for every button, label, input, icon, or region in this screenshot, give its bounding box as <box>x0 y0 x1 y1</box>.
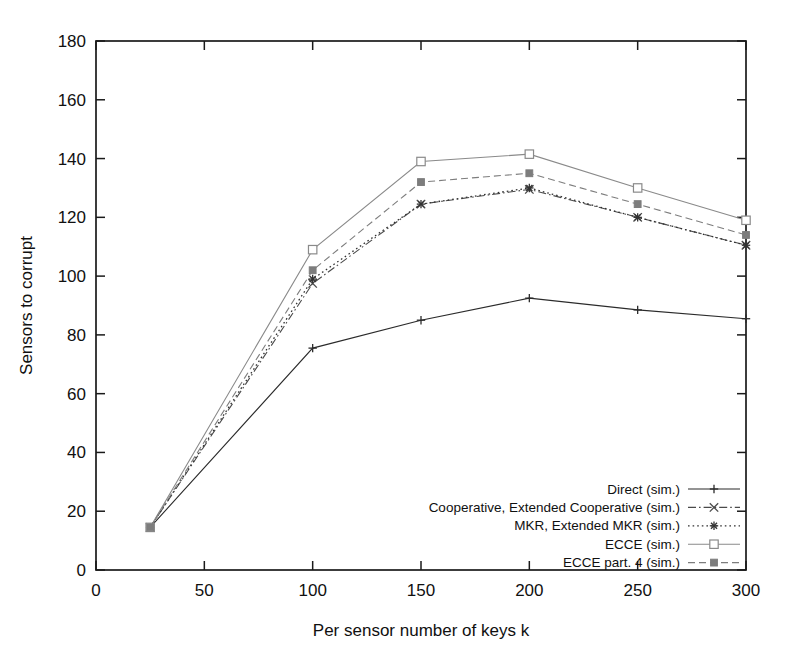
x-axis-title: Per sensor number of keys k <box>313 621 530 640</box>
y-tick-label: 40 <box>67 443 86 462</box>
series-line <box>150 173 746 527</box>
legend: Direct (sim.)Cooperative, Extended Coope… <box>429 482 740 571</box>
marker-open-square <box>742 216 750 224</box>
x-tick-label: 100 <box>298 581 326 600</box>
marker-open-square <box>633 184 641 192</box>
y-tick-label: 0 <box>77 561 86 580</box>
series-line <box>150 188 746 527</box>
marker-filled-square <box>309 267 316 274</box>
y-tick-label: 20 <box>67 502 86 521</box>
x-tick-label: 200 <box>515 581 543 600</box>
x-tick-label: 300 <box>732 581 760 600</box>
legend-label: Cooperative, Extended Cooperative (sim.) <box>429 500 680 515</box>
marker-filled-square <box>634 201 641 208</box>
marker-filled-square <box>526 170 533 177</box>
marker-filled-square <box>743 232 750 239</box>
series-3 <box>146 184 750 532</box>
marker-open-square <box>308 245 316 253</box>
marker-open-square <box>525 150 533 158</box>
series-5 <box>147 170 750 531</box>
chart-container: 0204060801001201401601800501001502002503… <box>0 0 796 647</box>
series-4 <box>146 150 750 532</box>
legend-label: ECCE part. 4 (sim.) <box>563 555 680 570</box>
legend-label: ECCE (sim.) <box>605 537 680 552</box>
series-2 <box>146 185 750 531</box>
legend-label: Direct (sim.) <box>607 482 680 497</box>
marker-open-square <box>710 540 718 548</box>
line-chart: 0204060801001201401601800501001502002503… <box>0 0 796 647</box>
y-tick-label: 60 <box>67 385 86 404</box>
x-tick-label: 250 <box>623 581 651 600</box>
x-tick-label: 0 <box>91 581 100 600</box>
y-tick-label: 120 <box>58 208 86 227</box>
series-line <box>150 154 746 527</box>
y-axis-title: Sensors to corrupt <box>17 236 36 375</box>
series-line <box>150 189 746 527</box>
x-tick-label: 150 <box>407 581 435 600</box>
marker-open-square <box>417 157 425 165</box>
marker-filled-square <box>147 524 154 531</box>
marker-filled-square <box>418 179 425 186</box>
legend-label: MKR, Extended MKR (sim.) <box>514 518 680 533</box>
y-tick-label: 140 <box>58 150 86 169</box>
y-tick-label: 180 <box>58 32 86 51</box>
marker-filled-square <box>711 559 718 566</box>
x-tick-label: 50 <box>195 581 214 600</box>
y-tick-label: 100 <box>58 267 86 286</box>
y-tick-label: 80 <box>67 326 86 345</box>
y-tick-label: 160 <box>58 91 86 110</box>
